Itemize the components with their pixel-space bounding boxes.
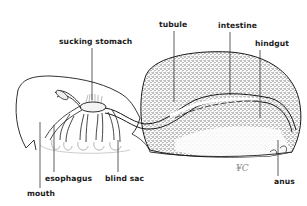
label-mouth: mouth	[27, 190, 55, 198]
label-anus: anus	[274, 178, 295, 186]
abdomen	[141, 52, 301, 157]
label-tubule: tubule	[159, 21, 187, 29]
artist-signature: ¥C	[236, 163, 249, 173]
esophagus-tube	[45, 106, 82, 140]
cephalothorax	[16, 76, 150, 152]
sucking-stomach-structure	[55, 89, 106, 112]
label-sucking-stomach: sucking stomach	[59, 38, 132, 46]
anatomy-diagram: sucking stomach tubule intestine hindgut…	[0, 0, 307, 206]
label-intestine: intestine	[218, 22, 257, 30]
label-hindgut: hindgut	[255, 40, 289, 48]
label-blind-sac: blind sac	[105, 175, 144, 183]
label-esophagus: esophagus	[45, 175, 92, 183]
